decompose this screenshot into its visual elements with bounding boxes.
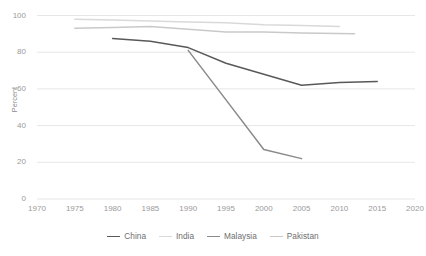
legend-swatch-icon [159,236,172,237]
x-tick-label: 2015 [360,205,394,213]
series-line-india [75,19,340,26]
legend-swatch-icon [270,236,283,237]
legend-label: Pakistan [287,232,319,240]
x-tick-label: 1995 [209,205,243,213]
legend-label: Malaysia [224,232,257,240]
y-tick-label: 100 [0,12,26,20]
x-tick-label: 2010 [322,205,356,213]
legend-item-china[interactable]: China [107,232,146,240]
x-tick-label: 2005 [285,205,319,213]
gridlines [37,16,415,200]
x-tick-label: 1970 [20,205,54,213]
x-tick-label: 1990 [171,205,205,213]
legend-swatch-icon [207,236,220,237]
y-tick-label: 80 [0,48,26,56]
legend-label: China [124,232,146,240]
chart-legend: ChinaIndiaMalaysiaPakistan [0,232,426,240]
x-tick-label: 1980 [96,205,130,213]
y-tick-label: 20 [0,158,26,166]
legend-label: India [176,232,194,240]
y-tick-label: 60 [0,85,26,93]
legend-swatch-icon [107,236,120,237]
line-chart: Percent 020406080100 1970197519801985199… [0,0,426,256]
plot-area [0,0,426,256]
series-line-malaysia [188,50,301,158]
legend-item-pakistan[interactable]: Pakistan [270,232,319,240]
series-line-pakistan [75,27,355,34]
x-tick-label: 2000 [247,205,281,213]
x-tick-label: 1975 [58,205,92,213]
x-tick-label: 1985 [133,205,167,213]
x-tick-label: 2020 [398,205,426,213]
y-tick-label: 0 [0,195,26,203]
legend-item-malaysia[interactable]: Malaysia [207,232,257,240]
y-tick-label: 40 [0,122,26,130]
chart-canvas [0,0,426,256]
series-line-china [113,38,378,85]
legend-item-india[interactable]: India [159,232,194,240]
